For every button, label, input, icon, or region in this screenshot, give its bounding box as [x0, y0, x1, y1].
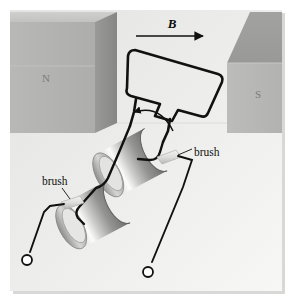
- motor-diagram: N S B: [0, 0, 290, 303]
- brush-right-label: brush: [194, 146, 220, 158]
- north-pole-label: N: [42, 72, 50, 84]
- north-pole-magnet: N: [10, 12, 117, 133]
- north-magnet-side-face: [95, 12, 117, 133]
- left-terminal[interactable]: [22, 255, 32, 265]
- north-magnet-front-face: [10, 22, 95, 133]
- south-pole-label: S: [255, 88, 261, 100]
- brush-left-label: brush: [42, 175, 68, 187]
- figure-container: N S B: [0, 0, 290, 303]
- field-label: B: [167, 16, 177, 31]
- right-terminal[interactable]: [143, 267, 153, 277]
